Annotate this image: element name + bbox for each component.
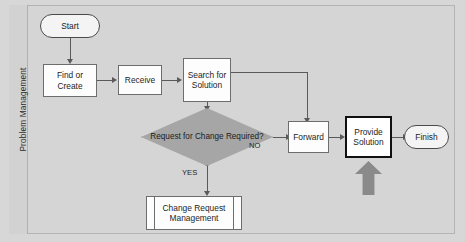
edge-find-to-receive <box>97 80 113 81</box>
arrowhead-right <box>177 77 182 83</box>
edge-label-no: NO <box>249 141 260 150</box>
edge-yes-to-crm <box>207 166 208 192</box>
flowchart-canvas: Problem Management Start Find or Create … <box>0 0 465 242</box>
node-find-or-create[interactable]: Find or Create <box>43 64 97 97</box>
edge-label-yes: YES <box>182 168 197 177</box>
node-forward[interactable]: Forward <box>288 121 329 153</box>
decision-label: Request for Change Required? <box>141 108 273 166</box>
arrowhead-right <box>112 77 117 83</box>
edge-start-to-find <box>70 38 71 60</box>
node-start[interactable]: Start <box>40 14 100 38</box>
node-search-for-solution[interactable]: Search for Solution <box>183 58 231 102</box>
node-change-request-management[interactable]: Change Request Management <box>146 196 242 230</box>
swimlane-header: Problem Management <box>9 5 28 234</box>
edge-receive-to-search <box>162 80 178 81</box>
edge-search-to-forward-h <box>231 72 308 73</box>
node-decision-change-required[interactable]: Request for Change Required? <box>141 108 273 166</box>
edge-search-to-forward-v <box>307 72 308 119</box>
node-receive[interactable]: Receive <box>118 65 162 95</box>
edge-no-to-forward <box>273 137 287 138</box>
swimlane-label: Problem Management <box>19 20 28 200</box>
node-provide-solution[interactable]: Provide Solution <box>345 116 392 158</box>
node-finish[interactable]: Finish <box>404 125 449 149</box>
